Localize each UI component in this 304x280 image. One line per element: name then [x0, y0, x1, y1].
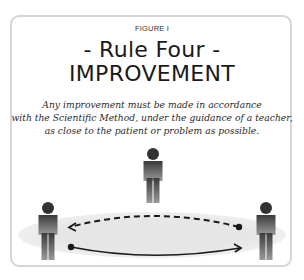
ground-ellipse [18, 212, 286, 258]
person-icon-teacher [144, 148, 163, 203]
person-icon-right [257, 202, 276, 260]
person-icon-left [39, 202, 58, 260]
improvement-diagram [0, 0, 304, 280]
